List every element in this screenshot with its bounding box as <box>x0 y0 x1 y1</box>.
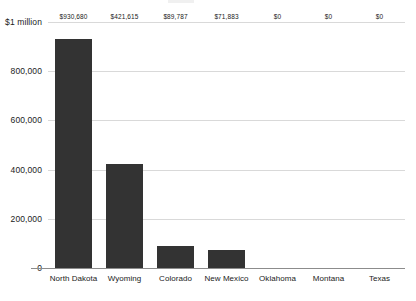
x-axis-line <box>31 268 405 269</box>
y-tick-label: 200,000 <box>11 214 42 224</box>
y-tick-label: 800,000 <box>11 66 42 76</box>
clipped-title-artifact <box>168 0 194 3</box>
bar-group: $421,615 <box>99 22 150 268</box>
bar-group: $930,680 <box>48 22 99 268</box>
bar-value-label: $89,787 <box>163 13 187 20</box>
bar-value-label: $71,883 <box>214 13 238 20</box>
bar-group: $0 <box>303 22 354 268</box>
y-tick-label: 400,000 <box>11 165 42 175</box>
x-tick-label: Oklahoma <box>252 274 303 292</box>
bar[interactable] <box>106 164 143 268</box>
x-tick-label: North Dakota <box>48 274 99 292</box>
x-axis-categories: North Dakota Wyoming Colorado New Mexico… <box>48 274 405 292</box>
bar-group: $89,787 <box>150 22 201 268</box>
bar-group: $0 <box>252 22 303 268</box>
bar-value-label: $930,680 <box>60 13 88 20</box>
bar-value-label: $421,615 <box>111 13 139 20</box>
x-tick-label: Colorado <box>150 274 201 292</box>
x-tick-label: Wyoming <box>99 274 150 292</box>
bar-group: $0 <box>354 22 405 268</box>
bar[interactable] <box>157 246 194 268</box>
bar-value-label: $0 <box>325 13 332 20</box>
bar-value-label: $0 <box>274 13 281 20</box>
y-axis: $1 million 800,000 600,000 400,000 200,0… <box>0 22 42 268</box>
x-tick-label: Texas <box>354 274 405 292</box>
bar-group: $71,883 <box>201 22 252 268</box>
bar-chart: $1 million 800,000 600,000 400,000 200,0… <box>0 0 416 301</box>
bars-container: $930,680 $421,615 $89,787 $71,883 $0 $0 … <box>48 22 405 268</box>
y-tick-label: $1 million <box>5 17 42 27</box>
bar-value-label: $0 <box>376 13 383 20</box>
bar[interactable] <box>208 250 245 268</box>
x-tick-label: Montana <box>303 274 354 292</box>
x-tick-label: New Mexico <box>201 274 252 292</box>
bar[interactable] <box>55 39 92 268</box>
y-tick-label: 600,000 <box>11 115 42 125</box>
